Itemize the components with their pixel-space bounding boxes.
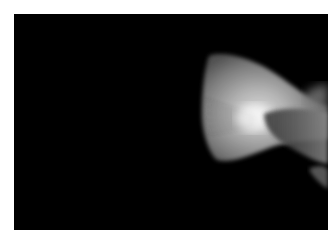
fish-tail-fin-illustration xyxy=(14,14,328,230)
photo: Close-up of a translucent fish tail fin … xyxy=(14,14,328,230)
